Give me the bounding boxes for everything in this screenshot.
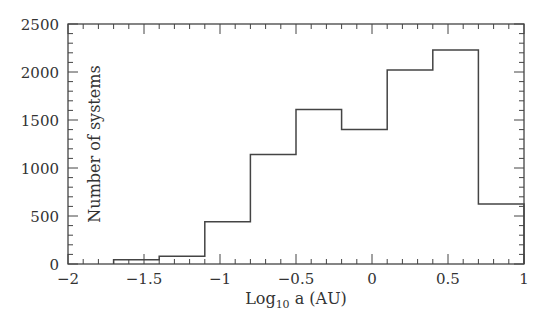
y-tick-label: 500 [30, 208, 59, 226]
y-tick-label: 1500 [21, 112, 59, 130]
y-axis-title: Number of systems [85, 65, 104, 222]
histogram-step-line [114, 50, 524, 264]
histogram-chart: −2−1.5−1−0.500.5105001000150020002500 Lo… [0, 0, 541, 324]
x-tick-label: 1 [519, 270, 529, 288]
y-tick-label: 2000 [21, 64, 59, 82]
y-tick-label: 0 [49, 256, 59, 274]
x-tick-label: 0 [367, 270, 377, 288]
x-tick-label: −2 [57, 270, 79, 288]
y-tick-label: 2500 [21, 16, 59, 34]
x-tick-label: −0.5 [278, 270, 314, 288]
x-axis-title: Log10 a (AU) [245, 289, 347, 311]
y-tick-label: 1000 [21, 160, 59, 178]
x-tick-label: −1.5 [126, 270, 162, 288]
x-tick-label: 0.5 [436, 270, 460, 288]
x-tick-label: −1 [209, 270, 231, 288]
